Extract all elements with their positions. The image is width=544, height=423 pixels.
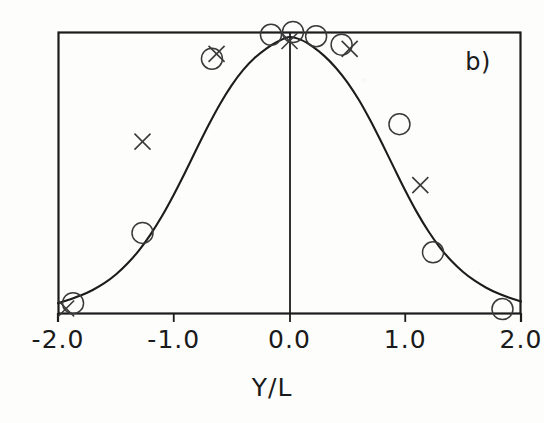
x-axis-label: Y/L [251, 373, 293, 402]
x-tick-label-0: -2.0 [32, 325, 85, 354]
data-marker-circle [132, 222, 153, 243]
x-tick-label-1: -1.0 [147, 325, 200, 354]
data-marker-circle [492, 299, 513, 320]
x-tick-label-2: 0.0 [268, 325, 311, 354]
x-tick-label-4: 2.0 [500, 325, 543, 354]
data-marker-cross [342, 41, 358, 57]
data-marker-cross [134, 134, 150, 150]
circle-marker-group [63, 22, 513, 320]
chart-svg: -2.0-1.00.01.02.0 Y/L b) [0, 0, 544, 423]
data-marker-circle [423, 242, 444, 263]
data-marker-cross [209, 46, 225, 62]
data-marker-circle [63, 293, 84, 314]
data-marker-circle [331, 34, 352, 55]
x-tick-label-3: 1.0 [384, 325, 427, 354]
panel-label: b) [465, 48, 491, 76]
data-marker-circle [389, 114, 410, 135]
data-marker-circle [306, 26, 327, 47]
x-tick-label-group: -2.0-1.00.01.02.0 [32, 325, 543, 354]
data-marker-cross [412, 177, 428, 193]
cross-marker-group [58, 33, 428, 317]
data-marker-circle [260, 24, 281, 45]
